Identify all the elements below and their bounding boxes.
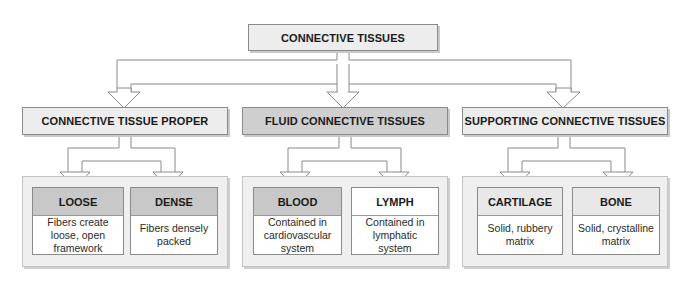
- card-blood: BLOOD Contained in cardiovascular system: [253, 187, 342, 255]
- card-bone: BONE Solid, crystalline matrix: [572, 187, 660, 255]
- card-title: BONE: [573, 188, 659, 216]
- card-cartilage: CARTILAGE Solid, rubbery matrix: [477, 187, 563, 255]
- category-label: SUPPORTING CONNECTIVE TISSUES: [465, 115, 666, 127]
- card-description: Fibers create loose, open framework: [33, 216, 123, 254]
- root-label: CONNECTIVE TISSUES: [281, 32, 405, 44]
- card-description: Solid, crystalline matrix: [573, 216, 659, 254]
- card-lymph: LYMPH Contained in lymphatic system: [351, 187, 439, 255]
- card-title: DENSE: [131, 188, 217, 216]
- card-dense: DENSE Fibers densely packed: [130, 187, 218, 255]
- card-title: CARTILAGE: [478, 188, 562, 216]
- card-description: Contained in lymphatic system: [352, 216, 438, 254]
- card-title: BLOOD: [254, 188, 341, 216]
- card-title: LYMPH: [352, 188, 438, 216]
- root-node: CONNECTIVE TISSUES: [248, 24, 438, 51]
- card-description: Solid, rubbery matrix: [478, 216, 562, 254]
- card-description: Fibers densely packed: [131, 216, 217, 254]
- category-connective-tissue-proper: CONNECTIVE TISSUE PROPER: [22, 107, 228, 135]
- card-loose: LOOSE Fibers create loose, open framewor…: [32, 187, 124, 255]
- card-title: LOOSE: [33, 188, 123, 216]
- category-supporting-connective-tissues: SUPPORTING CONNECTIVE TISSUES: [462, 107, 668, 135]
- card-description: Contained in cardiovascular system: [254, 216, 341, 254]
- category-label: FLUID CONNECTIVE TISSUES: [265, 115, 425, 127]
- category-label: CONNECTIVE TISSUE PROPER: [42, 115, 209, 127]
- category-fluid-connective-tissues: FLUID CONNECTIVE TISSUES: [242, 107, 448, 135]
